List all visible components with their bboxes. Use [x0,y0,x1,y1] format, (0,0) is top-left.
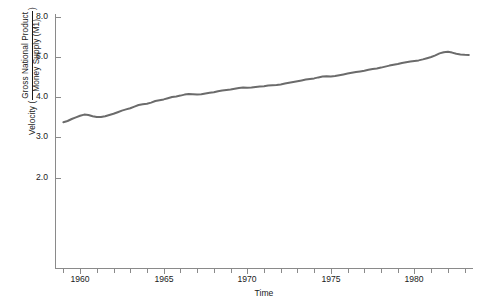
figure-container: Velocity ( Gross National Product Money … [0,0,480,302]
data-series-line [63,52,468,122]
plot-area [0,0,480,302]
